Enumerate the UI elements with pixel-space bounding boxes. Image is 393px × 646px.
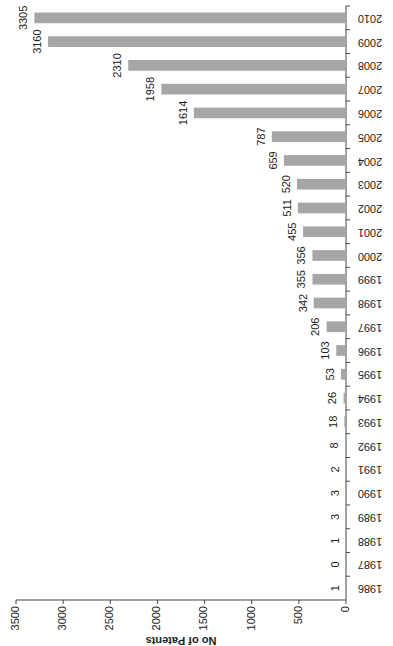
data-label-1986: 1	[329, 585, 341, 591]
bar-1996	[336, 345, 346, 356]
bar-2002	[298, 203, 346, 214]
value-tick-label-1500: 1500	[197, 606, 209, 630]
category-label-1990: 1990	[358, 488, 382, 500]
category-label-2003: 2003	[358, 179, 382, 191]
data-label-2006: 1614	[177, 101, 189, 125]
category-label-1996: 1996	[358, 346, 382, 358]
category-label-1992: 1992	[358, 441, 382, 453]
bar-2000	[312, 250, 346, 261]
data-label-2007: 1958	[144, 77, 156, 101]
category-label-1998: 1998	[358, 298, 382, 310]
data-label-1988: 1	[329, 538, 341, 544]
bar-1993	[344, 416, 346, 427]
data-label-1995: 53	[324, 368, 336, 380]
bar-1994	[344, 393, 346, 404]
data-label-1993: 18	[327, 416, 339, 428]
value-tick-label-3000: 3000	[56, 606, 68, 630]
value-axis-title: No of Patents	[146, 635, 217, 646]
category-label-1995: 1995	[358, 369, 382, 381]
category-label-1986: 1986	[358, 583, 382, 595]
bar-1998	[314, 298, 346, 309]
data-label-1996: 103	[319, 341, 331, 359]
category-label-2009: 2009	[358, 37, 382, 49]
category-label-2005: 2005	[358, 132, 382, 144]
bar-1992	[345, 440, 346, 451]
bar-1999	[313, 274, 346, 285]
data-label-1989: 3	[329, 514, 341, 520]
bar-1997	[327, 321, 346, 332]
category-label-2002: 2002	[358, 203, 382, 215]
data-label-2010: 3305	[17, 6, 29, 30]
category-label-2008: 2008	[358, 60, 382, 72]
data-label-1994: 26	[326, 392, 338, 404]
data-label-2004: 659	[267, 151, 279, 169]
data-label-1987: 0	[329, 561, 341, 567]
category-label-1993: 1993	[358, 417, 382, 429]
bar-2007	[161, 84, 346, 95]
category-label-1988: 1988	[358, 536, 382, 548]
category-label-1997: 1997	[358, 322, 382, 334]
data-label-2005: 787	[255, 128, 267, 146]
bar-2001	[303, 226, 346, 237]
category-label-1987: 1987	[358, 559, 382, 571]
value-tick-label-500: 500	[292, 606, 304, 624]
category-label-2001: 2001	[358, 227, 382, 239]
category-label-1989: 1989	[358, 512, 382, 524]
bar-2004	[284, 155, 346, 166]
value-tick-label-2500: 2500	[103, 606, 115, 630]
data-label-2000: 356	[295, 246, 307, 264]
category-label-1994: 1994	[358, 393, 382, 405]
data-label-1992: 8	[328, 442, 340, 448]
data-label-1991: 2	[329, 466, 341, 472]
bar-1995	[341, 369, 346, 380]
data-label-1990: 3	[329, 490, 341, 496]
bar-2008	[128, 60, 346, 71]
data-label-2002: 511	[281, 199, 293, 217]
data-label-2008: 2310	[111, 53, 123, 77]
category-label-2006: 2006	[358, 108, 382, 120]
category-label-2004: 2004	[358, 156, 382, 168]
bar-2010	[34, 13, 346, 24]
bar-2009	[48, 36, 346, 47]
value-tick-label-2000: 2000	[150, 606, 162, 630]
category-label-1991: 1991	[358, 464, 382, 476]
value-tick-label-0: 0	[339, 606, 351, 612]
data-label-2003: 520	[280, 175, 292, 193]
value-tick-label-3500: 3500	[9, 606, 21, 630]
data-label-1997: 206	[309, 318, 321, 336]
category-label-2010: 2010	[358, 13, 382, 25]
category-label-2000: 2000	[358, 251, 382, 263]
data-label-1998: 342	[297, 294, 309, 312]
category-label-2007: 2007	[358, 84, 382, 96]
value-tick-label-1000: 1000	[245, 606, 257, 630]
category-label-1999: 1999	[358, 274, 382, 286]
data-label-1999: 355	[295, 270, 307, 288]
chart-svg: 1986119870198811989319903199121992819931…	[0, 0, 393, 646]
data-label-2009: 3160	[31, 29, 43, 53]
bar-2006	[194, 108, 346, 119]
bar-2005	[272, 131, 346, 142]
bar-2003	[297, 179, 346, 190]
patents-bar-chart: 1986119870198811989319903199121992819931…	[0, 0, 393, 646]
data-label-2001: 455	[286, 223, 298, 241]
